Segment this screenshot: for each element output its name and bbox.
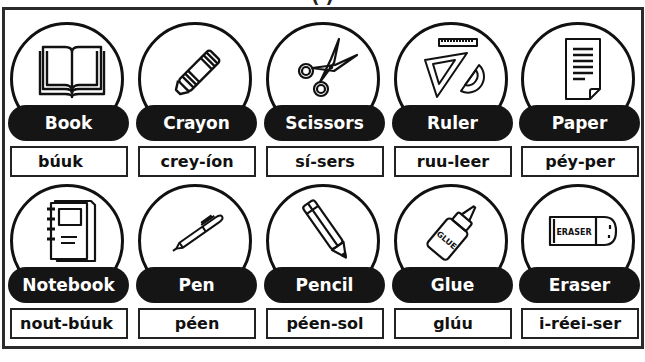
- pronunciation-box: crey-íon: [138, 146, 256, 177]
- svg-text:ERASER: ERASER: [556, 228, 591, 237]
- pronunciation-box: péen: [138, 308, 256, 339]
- scissors-icon: [293, 35, 363, 105]
- word-label: Pen: [136, 267, 257, 303]
- pronunciation-box: sí-sers: [266, 146, 384, 177]
- glue-bottle-icon: GLUE: [421, 197, 491, 267]
- word-label: Crayon: [136, 105, 257, 141]
- word-label: Notebook: [8, 267, 129, 303]
- word-label: Glue: [392, 267, 513, 303]
- vocab-card-pencil: Pencil péen-sol: [264, 184, 386, 341]
- crayon-icon: [165, 35, 235, 105]
- notebook-icon: [37, 197, 107, 267]
- vocab-card-scissors: Scissors sí-sers: [264, 22, 386, 179]
- vocab-card-book: Book búuk: [8, 22, 130, 179]
- vocab-card-glue: GLUE Glue glúu: [392, 184, 514, 341]
- pronunciation-box: ruu-leer: [394, 146, 512, 177]
- pronunciation-box: búuk: [10, 146, 128, 177]
- word-label: Eraser: [519, 267, 640, 303]
- pronunciation-box: péen-sol: [266, 308, 384, 339]
- pen-icon: [165, 197, 235, 267]
- paper-sheet-icon: [548, 35, 618, 105]
- word-label: Scissors: [264, 105, 385, 141]
- ruler-set-icon: [421, 35, 491, 105]
- word-label: Paper: [519, 105, 640, 141]
- pronunciation-box: i-réei-ser: [521, 308, 639, 339]
- vocab-card-eraser: ERASER Eraser i-réei-ser: [519, 184, 641, 341]
- pronunciation-box: péy-per: [521, 146, 639, 177]
- vocab-card-ruler: Ruler ruu-leer: [392, 22, 514, 179]
- vocab-card-paper: Paper péy-per: [519, 22, 641, 179]
- word-label: Book: [8, 105, 129, 141]
- word-label: Ruler: [392, 105, 513, 141]
- pronunciation-box: nout-búuk: [10, 308, 128, 339]
- pencil-icon: [293, 197, 363, 267]
- eraser-icon: ERASER: [548, 197, 618, 267]
- vocab-card-crayon: Crayon crey-íon: [136, 22, 258, 179]
- vocab-card-notebook: Notebook nout-búuk: [8, 184, 130, 341]
- open-book-icon: [37, 35, 107, 105]
- svg-text:GLUE: GLUE: [435, 229, 459, 251]
- vocab-card-pen: Pen péen: [136, 184, 258, 341]
- word-label: Pencil: [264, 267, 385, 303]
- page-title-fragment: ( ): [0, 0, 645, 6]
- pronunciation-box: glúu: [394, 308, 512, 339]
